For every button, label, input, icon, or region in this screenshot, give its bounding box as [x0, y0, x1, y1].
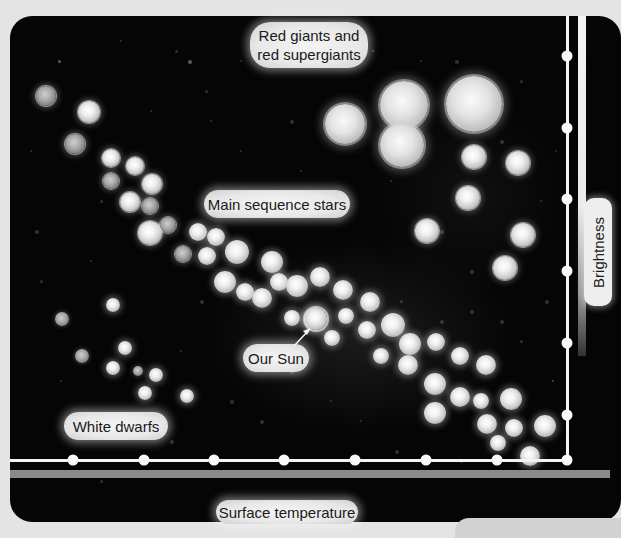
x-axis-label-text: Surface temperature [219, 503, 356, 522]
y-axis-label: Brightness [584, 198, 612, 306]
y-axis-label-text: Brightness [590, 217, 607, 288]
x-axis-label: Surface temperature [216, 500, 358, 524]
label-white-dwarfs: White dwarfs [64, 412, 168, 440]
label-white-dwarfs-text: White dwarfs [73, 417, 160, 436]
sun-arrow-icon [0, 0, 621, 538]
